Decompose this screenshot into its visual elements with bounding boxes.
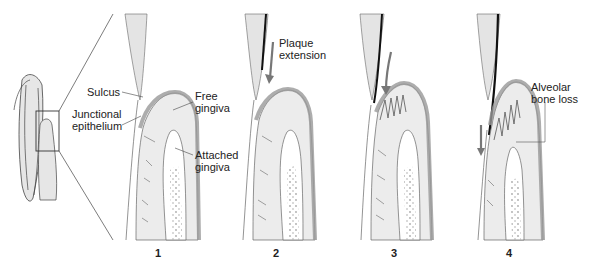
panel-1 bbox=[125, 14, 199, 240]
panel-number-1: 1 bbox=[155, 247, 161, 259]
panel-3 bbox=[360, 14, 432, 240]
label-free-2: gingiva bbox=[195, 102, 230, 114]
plaque-arrow bbox=[386, 52, 391, 90]
panel-number-2: 2 bbox=[273, 247, 279, 259]
panel-4 bbox=[477, 14, 545, 240]
label-bone-1: Alveolar bbox=[531, 81, 571, 93]
panel-number-4: 4 bbox=[506, 247, 512, 259]
plaque-arrow bbox=[270, 42, 273, 78]
label-sulcus: Sulcus bbox=[87, 86, 120, 98]
label-bone-2: bone loss bbox=[531, 93, 578, 105]
label-junctional-1: Junctional bbox=[72, 108, 122, 120]
label-plaque-2: extension bbox=[279, 49, 326, 61]
panel-number-3: 3 bbox=[391, 247, 397, 259]
label-attached-1: Attached bbox=[195, 149, 238, 161]
label-free-1: Free bbox=[195, 90, 218, 102]
label-junctional-2: epithelium bbox=[72, 120, 122, 132]
label-plaque-1: Plaque bbox=[279, 37, 313, 49]
label-attached-2: gingiva bbox=[195, 161, 230, 173]
